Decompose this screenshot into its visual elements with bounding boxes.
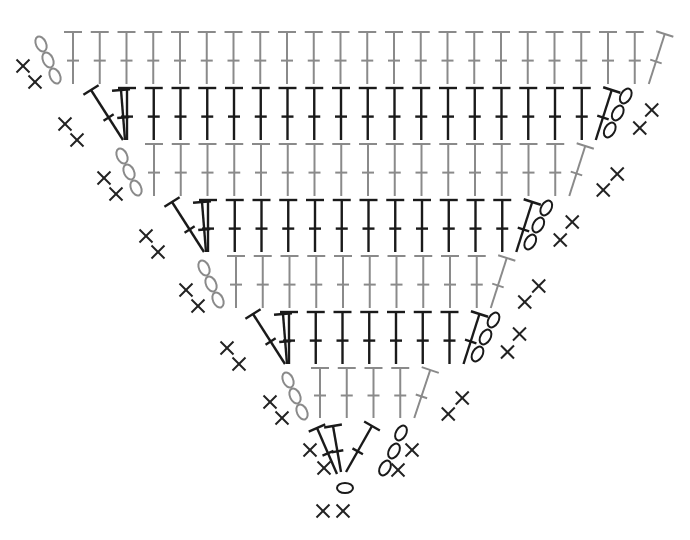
double-crochet-icon [464,311,489,364]
double-crochet-icon [172,144,190,196]
double-crochet-icon [387,312,405,364]
double-crochet-icon [305,88,323,140]
double-crochet-icon [252,144,270,196]
chain-icon [469,345,486,364]
double-crochet-icon [332,144,350,196]
double-crochet-icon [198,88,216,140]
double-crochet-icon [492,32,510,84]
single-crochet-icon [406,444,419,457]
single-crochet-icon [442,408,455,421]
double-crochet-icon [516,199,541,252]
double-crochet-icon [546,144,564,196]
single-crochet-icon [513,328,526,341]
double-crochet-icon [346,422,380,472]
double-crochet-icon [145,144,163,196]
double-crochet-icon [311,368,329,418]
single-crochet-icon [98,172,111,185]
double-crochet-icon [279,200,297,252]
double-crochet-icon [278,32,296,84]
chain-icon [601,121,618,140]
double-crochet-icon [493,144,511,196]
single-crochet-icon [17,60,30,73]
double-crochet-icon [338,368,356,418]
double-crochet-icon [649,31,674,84]
chain-icon [522,233,539,252]
double-crochet-icon [361,256,379,308]
double-crochet-icon [360,200,378,252]
single-crochet-icon [233,358,246,371]
double-crochet-icon [245,309,285,364]
double-crochet-icon [145,88,163,140]
double-crochet-icon [466,144,484,196]
chain-icon [121,163,137,182]
single-crochet-icon [59,118,72,131]
double-crochet-icon [465,32,483,84]
chain-icon [386,442,403,461]
double-crochet-icon [519,88,537,140]
double-crochet-icon [360,312,378,364]
double-crochet-icon [572,32,590,84]
chain-icon [196,259,212,278]
double-crochet-icon [519,32,537,84]
double-crochet-icon [491,255,516,308]
double-crochet-icon [254,256,272,308]
single-crochet-icon [318,462,331,475]
double-crochet-icon [279,144,297,196]
double-crochet-icon [172,88,190,140]
double-crochet-icon [386,200,404,252]
single-crochet-icon [317,505,330,518]
double-crochet-icon [226,200,244,252]
single-crochet-icon [501,346,514,359]
double-crochet-icon [332,32,350,84]
double-crochet-icon [199,144,217,196]
double-crochet-icon [626,32,644,84]
double-crochet-icon [252,88,270,140]
double-crochet-icon [225,32,243,84]
chain-icon [33,35,49,54]
double-crochet-icon [386,144,404,196]
chain-icon [538,199,555,218]
double-crochet-icon [467,200,485,252]
double-crochet-icon [441,256,459,308]
double-crochet-icon [198,32,216,84]
chain-icon [477,328,494,347]
double-crochet-icon [64,32,82,84]
chain-icon [377,459,394,478]
double-crochet-icon [414,312,432,364]
chain-icon [485,311,502,330]
double-crochet-icon [225,88,243,140]
single-crochet-icon [152,246,165,259]
double-crochet-icon [391,368,409,418]
double-crochet-icon [334,256,352,308]
double-crochet-icon [279,88,297,140]
double-crochet-icon [546,88,564,140]
double-crochet-icon [468,256,486,308]
single-crochet-icon [645,104,658,117]
double-crochet-icon [412,88,430,140]
double-crochet-icon [569,143,594,196]
double-crochet-icon [412,32,430,84]
double-crochet-icon [171,32,189,84]
single-crochet-icon [71,134,84,147]
single-crochet-icon [518,296,531,309]
double-crochet-icon [144,32,162,84]
single-crochet-icon [337,505,350,518]
single-crochet-icon [304,444,317,457]
double-crochet-icon [573,88,591,140]
double-crochet-icon [333,200,351,252]
double-crochet-icon [227,256,245,308]
double-crochet-icon [439,32,457,84]
single-crochet-icon [554,234,567,247]
single-crochet-icon [110,188,123,201]
double-crochet-icon [413,144,431,196]
single-crochet-icon [597,184,610,197]
chain-icon [280,371,296,390]
single-crochet-icon [264,396,277,409]
double-crochet-icon [118,32,136,84]
double-crochet-icon [439,88,457,140]
double-crochet-icon [440,200,458,252]
double-crochet-icon [359,88,377,140]
single-crochet-icon [140,230,153,243]
double-crochet-icon [307,312,325,364]
chain-icon [203,275,219,294]
